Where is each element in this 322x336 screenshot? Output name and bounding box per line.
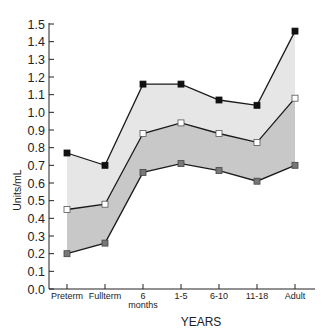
y-tick-label: 0.7 (28, 159, 45, 173)
lower-marker (140, 169, 146, 175)
x-axis-title: YEARS (181, 315, 222, 329)
upper-marker (178, 81, 184, 87)
y-tick-label: 0.6 (28, 177, 45, 191)
y-tick-label: 0.5 (28, 194, 45, 208)
upper-marker (64, 150, 70, 156)
mean-marker (292, 95, 298, 101)
mean-marker (140, 131, 146, 137)
mean-marker (178, 120, 184, 126)
upper-marker (216, 97, 222, 103)
mean-marker (216, 131, 222, 137)
lower-marker (216, 168, 222, 174)
y-tick-label: 1.3 (28, 53, 45, 67)
y-tick-label: 0.2 (28, 247, 45, 261)
mean-marker (102, 201, 108, 207)
x-tick-label: Fullterm (89, 291, 122, 301)
lower-marker (254, 178, 260, 184)
upper-marker (292, 28, 298, 34)
y-tick-label: 0.1 (28, 265, 45, 279)
x-tick-label: 11-18 (246, 291, 268, 301)
lower-marker (102, 240, 108, 246)
y-tick-label: 1.5 (28, 18, 45, 32)
upper-marker (254, 102, 260, 108)
y-tick-label: 1.1 (28, 88, 45, 102)
x-tick-label: 6-10 (210, 291, 228, 301)
y-tick-label: 1.4 (28, 35, 45, 49)
mean-marker (64, 207, 70, 213)
mean-marker (254, 139, 260, 145)
lower-marker (178, 161, 184, 167)
x-tick-label: Preterm (51, 291, 83, 301)
y-tick-label: 0.8 (28, 141, 45, 155)
lower-marker (292, 162, 298, 168)
upper-marker (140, 81, 146, 87)
lower-marker (64, 251, 70, 257)
y-tick-label: 1.0 (28, 106, 45, 120)
y-tick-label: 0.4 (28, 212, 45, 226)
x-tick-label: months (128, 300, 158, 310)
y-axis-title: Units/mL (11, 169, 23, 211)
upper-marker (102, 162, 108, 168)
range-bands (67, 31, 295, 254)
line-area-chart: 0.00.10.20.30.40.50.60.70.80.91.01.11.21… (0, 0, 322, 336)
y-tick-label: 0.9 (28, 124, 45, 138)
y-tick-label: 0.3 (28, 230, 45, 244)
x-tick-label: Adult (285, 291, 306, 301)
y-tick-label: 1.2 (28, 71, 45, 85)
y-tick-label: 0.0 (28, 283, 45, 297)
x-tick-label: 1-5 (174, 291, 187, 301)
